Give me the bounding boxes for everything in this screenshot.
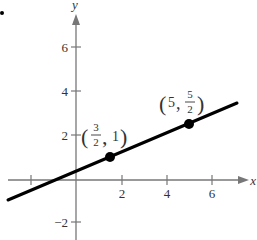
svg-text:3: 3 xyxy=(93,121,99,133)
y-tick-label-2: 2 xyxy=(62,128,69,143)
y-tick-label-4: 4 xyxy=(62,84,69,99)
point-3-2-1 xyxy=(105,152,115,162)
y-tick-label-neg2: −2 xyxy=(54,215,68,230)
point-5-5-2 xyxy=(184,119,194,129)
x-tick-label-2: 2 xyxy=(119,186,126,201)
bullet-marker xyxy=(0,11,4,15)
x-axis-arrow-icon xyxy=(238,176,249,184)
svg-text:,: , xyxy=(176,93,181,113)
svg-text:2: 2 xyxy=(93,136,99,148)
point-1-label: ( 3 2 , 1 ) xyxy=(81,121,127,149)
x-tick-label-6: 6 xyxy=(209,186,216,201)
svg-text:,: , xyxy=(102,124,108,149)
chart: y x 2 4 6 6 4 2 −2 ( 3 2 , 1 ) ( 5 , xyxy=(0,0,257,240)
svg-text:(: ( xyxy=(159,91,166,116)
svg-text:5: 5 xyxy=(168,95,175,110)
svg-text:): ) xyxy=(197,91,204,116)
y-axis-label: y xyxy=(70,0,78,12)
y-axis-arrow-icon xyxy=(72,14,80,25)
x-axis-label: x xyxy=(249,173,256,188)
point-2-label: ( 5 , 5 2 ) xyxy=(159,88,204,116)
y-tick-label-6: 6 xyxy=(62,40,69,55)
svg-text:1: 1 xyxy=(112,129,119,144)
svg-text:(: ( xyxy=(81,124,88,149)
svg-text:5: 5 xyxy=(187,88,193,100)
svg-text:): ) xyxy=(120,124,127,149)
x-tick-label-4: 4 xyxy=(164,186,171,201)
svg-text:2: 2 xyxy=(187,103,193,115)
